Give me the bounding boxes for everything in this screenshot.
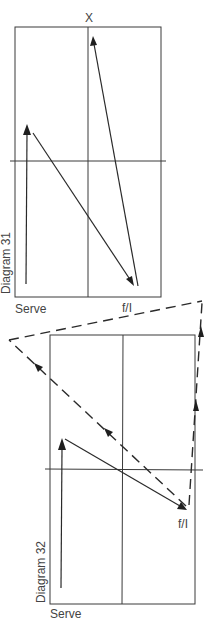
serve-label: Serve: [50, 607, 82, 621]
arrowhead-icon: [23, 124, 31, 135]
serve-label: Serve: [15, 302, 47, 316]
return-arrow: [94, 44, 138, 286]
fi-label: f/I: [178, 517, 188, 531]
diagram-title: Diagram 32: [34, 541, 48, 603]
diagrams-canvas: X Serve f/I Diagram 31 f/I Serve Diagram…: [0, 0, 212, 633]
net-line: [45, 469, 203, 470]
arrowhead-icon: [90, 36, 97, 46]
diagram-32: f/I Serve Diagram 32: [9, 301, 204, 621]
diagram-title: Diagram 31: [0, 232, 13, 294]
arrowhead-icon: [126, 276, 134, 286]
arrowhead-icon: [198, 326, 204, 337]
diagonal-arrow: [33, 133, 131, 281]
x-label: X: [85, 11, 93, 25]
arrowhead-icon: [193, 400, 199, 411]
arrowhead-icon: [58, 438, 66, 450]
diagram-31: X Serve f/I Diagram 31: [0, 11, 166, 316]
serve-arrow: [26, 132, 27, 284]
fi-label: f/I: [122, 301, 132, 315]
